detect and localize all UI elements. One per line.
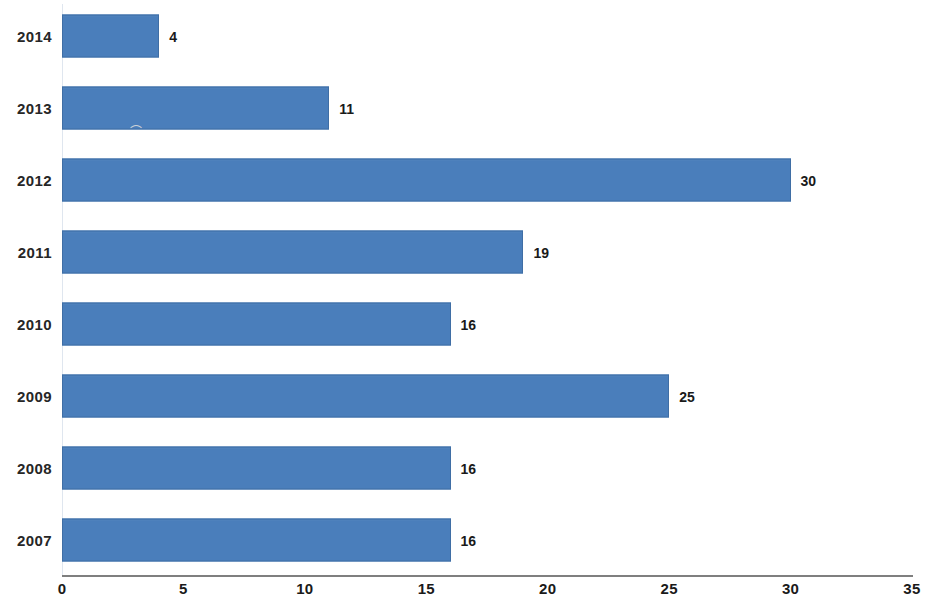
- y-axis-category-label: 2010: [0, 316, 52, 333]
- y-axis-category-label: 2011: [0, 244, 52, 261]
- chart-bar-group: 16: [62, 519, 476, 562]
- y-axis-category-label: 2014: [0, 28, 52, 45]
- chart-bar-group: 19: [62, 231, 549, 274]
- chart-category-row: 201230: [0, 144, 930, 216]
- chart-category-row: 201016: [0, 288, 930, 360]
- x-axis-tick-label: 0: [58, 580, 67, 597]
- chart-bar-value-label: 16: [461, 316, 477, 332]
- bar-chart: 2014420131120123020111920101620092520081…: [0, 0, 930, 607]
- chart-bar-group: 16: [62, 447, 476, 490]
- chart-bar: [62, 303, 451, 346]
- chart-bar: [62, 375, 669, 418]
- chart-bar-group: 11: [62, 87, 354, 130]
- chart-bar: [62, 15, 159, 58]
- chart-category-row: 201119: [0, 216, 930, 288]
- chart-bar-value-label: 30: [801, 172, 817, 188]
- x-axis-tick-label: 35: [903, 580, 920, 597]
- chart-bar-value-label: 25: [679, 388, 695, 404]
- chart-bar-group: 30: [62, 159, 816, 202]
- y-axis-category-label: 2007: [0, 532, 52, 549]
- chart-bar-group: 4: [62, 15, 177, 58]
- chart-bar-group: 16: [62, 303, 476, 346]
- chart-bar-value-label: 19: [533, 244, 549, 260]
- y-axis-category-label: 2009: [0, 388, 52, 405]
- chart-category-row: 200816: [0, 432, 930, 504]
- x-axis-line: [62, 575, 913, 577]
- x-axis-tick-label: 10: [296, 580, 313, 597]
- chart-bar: [62, 447, 451, 490]
- chart-category-row: 200716: [0, 504, 930, 576]
- chart-bar-value-label: 16: [461, 460, 477, 476]
- x-axis-tick-label: 5: [179, 580, 188, 597]
- x-axis-tick-label: 30: [782, 580, 799, 597]
- chart-category-row: 200925: [0, 360, 930, 432]
- chart-bar: [62, 519, 451, 562]
- chart-category-row: 20144: [0, 0, 930, 72]
- y-axis-category-label: 2008: [0, 460, 52, 477]
- x-axis-tick-label: 20: [539, 580, 556, 597]
- x-axis-tick-label: 25: [660, 580, 677, 597]
- chart-bar: [62, 231, 523, 274]
- chart-bar: [62, 159, 791, 202]
- chart-bar-group: 25: [62, 375, 695, 418]
- chart-bar-value-label: 16: [461, 532, 477, 548]
- chart-bar: [62, 87, 329, 130]
- x-axis-tick-label: 15: [418, 580, 435, 597]
- chart-bar-value-label: 11: [339, 100, 354, 116]
- y-axis-category-label: 2012: [0, 172, 52, 189]
- y-axis-category-label: 2013: [0, 100, 52, 117]
- chart-bar-value-label: 4: [169, 28, 177, 44]
- x-axis-tick-labels: 05101520253035: [0, 580, 930, 607]
- chart-category-row: 201311: [0, 72, 930, 144]
